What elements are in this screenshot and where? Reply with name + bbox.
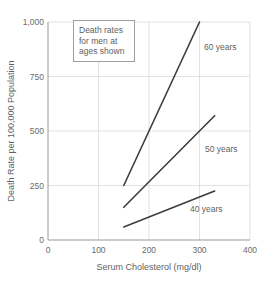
y-tick-label-0: 0 <box>39 235 44 245</box>
y-tick-label-250: 250 <box>30 181 44 191</box>
x-tick-label-300: 300 <box>192 245 206 255</box>
x-tick-label-400: 400 <box>243 245 257 255</box>
x-tick-label-200: 200 <box>142 245 156 255</box>
series-label-50-years: 50 years <box>205 144 238 154</box>
note-line-2: for men at <box>79 36 129 47</box>
series-label-40-years: 40 years <box>190 204 223 214</box>
note-line-3: ages shown <box>79 46 129 57</box>
note-box: Death rates for men at ages shown <box>73 20 135 62</box>
x-tick-label-100: 100 <box>91 245 105 255</box>
y-tick-label-750: 750 <box>30 72 44 82</box>
x-tick-labels: 0 100 200 300 400 <box>46 245 258 255</box>
series-labels: 60 years 50 years 40 years <box>190 42 238 214</box>
x-tick-label-0: 0 <box>46 245 51 255</box>
y-axis-title: Death Rate per 100,000 Population <box>6 60 16 201</box>
chart-canvas: 1,000 750 500 250 0 0 100 200 300 400 Se… <box>0 0 280 283</box>
series-line-50-years <box>124 116 215 208</box>
x-axis-title: Serum Cholesterol (mg/dl) <box>96 262 201 272</box>
note-line-1: Death rates <box>79 25 129 36</box>
y-tick-labels: 1,000 750 500 250 0 <box>23 17 45 245</box>
series-lines <box>124 22 215 227</box>
y-tick-label-1000: 1,000 <box>23 17 45 27</box>
chart-container: 1,000 750 500 250 0 0 100 200 300 400 Se… <box>0 0 280 283</box>
y-tick-label-500: 500 <box>30 126 44 136</box>
series-label-60-years: 60 years <box>204 42 237 52</box>
series-line-60-years <box>124 22 200 186</box>
